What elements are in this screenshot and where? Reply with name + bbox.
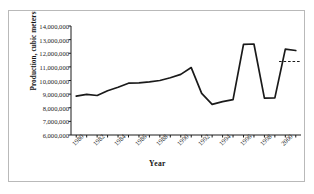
x-tick-label: 1980 [71,133,85,147]
x-tick-label: 1986 [133,133,147,147]
x-axis-tick-labels: 1980198219841986198819901992199419961998… [9,11,306,183]
x-tick-label: 1982 [92,133,106,147]
x-tick-label: 1990 [175,133,189,147]
chart-figure: Production, cubic meters 14,000,00013,00… [8,10,305,182]
x-tick-label: 1996 [238,133,252,147]
x-tick-label: 2000 [280,133,294,147]
x-tick-label: 1994 [217,133,231,147]
x-tick-label: 1998 [259,133,273,147]
x-tick-label: 1984 [113,133,127,147]
x-axis-label: Year [9,159,306,168]
x-tick-label: 1992 [196,133,210,147]
chart-plot-area: Production, cubic meters 14,000,00013,00… [9,11,306,183]
x-tick-label: 1988 [154,133,168,147]
